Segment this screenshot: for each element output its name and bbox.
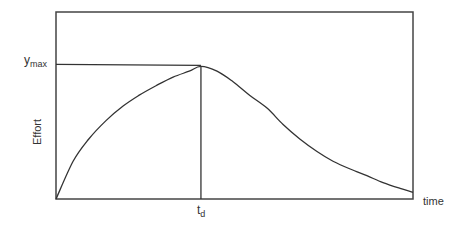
td-label: td	[197, 203, 205, 219]
y-axis-label: Effort	[31, 119, 43, 145]
effort-curve	[56, 66, 413, 199]
plot-frame	[56, 12, 413, 199]
td-subscript: d	[200, 209, 205, 219]
ymax-subscript: max	[30, 59, 48, 69]
effort-chart: ymax Effort td time	[0, 0, 466, 228]
ymax-reference-line	[56, 64, 201, 65]
x-axis-label: time	[423, 195, 444, 207]
ymax-label: ymax	[24, 53, 48, 69]
